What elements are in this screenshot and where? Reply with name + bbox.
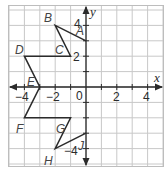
point-label-f: F [16, 122, 24, 136]
x-tick-label-2: 2 [113, 90, 120, 104]
point-label-j: J [77, 139, 85, 153]
x-tick-label-4: 4 [143, 90, 150, 104]
point-label-a: A [75, 24, 84, 38]
x-tick-label-neg4: −4 [15, 90, 29, 104]
coordinate-plane: x y 0 −4 −2 2 4 4 2 −4 A B C D E F G H J [0, 0, 166, 174]
point-label-d: D [15, 43, 24, 57]
x-tick-label-neg2: −2 [46, 90, 60, 104]
point-label-h: H [44, 154, 53, 168]
point-label-b: B [44, 11, 52, 25]
x-axis-label: x [153, 70, 160, 85]
point-label-c: C [55, 43, 64, 57]
y-axis-down-arrow-icon [83, 158, 90, 166]
point-label-g: G [56, 122, 65, 136]
y-tick-label-neg4: −4 [64, 144, 78, 158]
origin-label: 0 [76, 89, 83, 103]
y-tick-label-2: 2 [73, 50, 80, 64]
y-axis-label: y [88, 4, 96, 19]
point-label-e: E [27, 75, 36, 89]
labels: x y 0 −4 −2 2 4 4 2 −4 A B C D E F G H J [15, 4, 160, 168]
